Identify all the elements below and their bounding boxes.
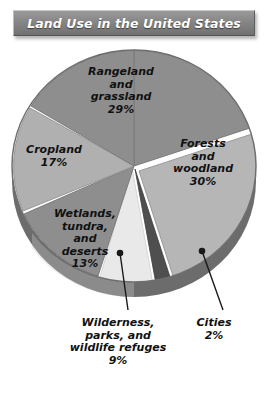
pie-chart: Rangeland and grassland 29% Forests and … bbox=[0, 40, 268, 395]
page-title: Land Use in the United States bbox=[27, 16, 241, 31]
pie-chart-graphic bbox=[8, 48, 260, 318]
chart-title-banner: Land Use in the United States bbox=[13, 10, 255, 36]
pie-label-wilderness: Wilderness, parks, and wildlife refuges … bbox=[56, 317, 180, 367]
pie-label-cities: Cities 2% bbox=[183, 317, 245, 342]
